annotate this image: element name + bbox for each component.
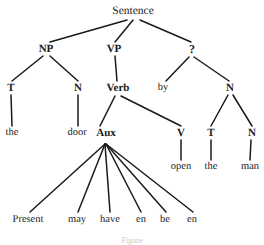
- tree-node-en2: en: [187, 215, 197, 226]
- tree-node-v: V: [177, 128, 185, 139]
- tree-node-en1: en: [136, 215, 146, 226]
- tree-node-n1: N: [74, 83, 82, 94]
- tree-edge-verb-aux: [100, 96, 115, 126]
- tree-node-vp: VP: [107, 44, 122, 55]
- tree-edge-layer: [0, 0, 264, 245]
- tree-node-np: NP: [39, 44, 54, 55]
- tree-node-man: man: [241, 162, 259, 173]
- tree-edge-aux-present: [30, 144, 105, 212]
- tree-node-aux: Aux: [96, 128, 116, 139]
- tree-node-n3: N: [248, 128, 256, 139]
- figure-caption: Figure: [0, 236, 264, 245]
- tree-node-qmark: ?: [189, 43, 195, 55]
- tree-edge-qmark-by: [166, 57, 189, 81]
- tree-node-t2: T: [207, 128, 214, 139]
- tree-edge-np-t1: [12, 56, 43, 81]
- tree-node-be: be: [160, 215, 170, 226]
- tree-edge-np-n1: [50, 56, 78, 81]
- tree-node-by: by: [158, 83, 169, 94]
- tree-node-t1: T: [7, 83, 14, 94]
- tree-node-sentence: Sentence: [112, 6, 154, 18]
- tree-node-door: door: [67, 128, 86, 139]
- tree-node-have: have: [100, 215, 120, 226]
- tree-edge-verb-v: [121, 96, 181, 126]
- syntax-tree-diagram: SentenceNPVP?TNVerbbyNthedoorAuxVTNopent…: [0, 0, 264, 245]
- tree-node-the1: the: [6, 128, 19, 139]
- tree-node-may: may: [68, 215, 86, 226]
- tree-edge-n2-n3: [233, 95, 252, 126]
- tree-edge-sentence-np: [50, 20, 127, 42]
- tree-node-n2: N: [226, 83, 234, 94]
- tree-edge-n3-man: [250, 140, 251, 160]
- tree-edge-aux-may: [78, 144, 105, 212]
- tree-edge-sentence-qmark: [140, 20, 191, 42]
- tree-edge-aux-en2: [106, 144, 193, 212]
- tree-edge-aux-have: [105, 144, 110, 212]
- tree-edge-qmark-n2: [194, 57, 229, 81]
- tree-node-present: Present: [13, 215, 44, 226]
- tree-edge-vp-verb: [115, 56, 117, 81]
- tree-node-the2: the: [205, 162, 218, 173]
- tree-node-verb: Verb: [107, 83, 130, 94]
- tree-edge-t1-the1: [11, 95, 12, 126]
- tree-edge-n2-t2: [211, 95, 228, 126]
- tree-node-open: open: [171, 162, 191, 173]
